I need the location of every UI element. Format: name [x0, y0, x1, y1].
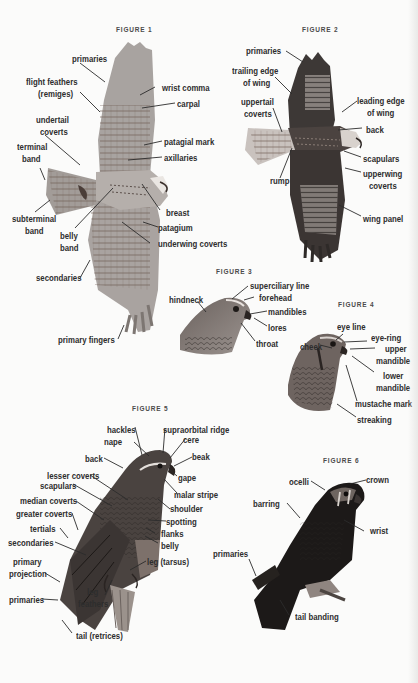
label-leg: leg: [87, 586, 98, 597]
label-shoulder: shoulder: [170, 503, 203, 514]
label-beak: beak: [192, 451, 210, 462]
label-primaries: primaries: [246, 45, 281, 56]
label-cheek: cheek: [300, 341, 322, 352]
label-undertail-coverts: coverts: [40, 126, 68, 137]
figure-4-title: FIGURE 4: [338, 301, 374, 308]
label-primary-fingers: primary fingers: [58, 334, 115, 345]
label-leg-tarsus: leg (tarsus): [147, 556, 189, 567]
label-gape: gape: [178, 472, 196, 483]
figure-3-title: FIGURE 3: [216, 268, 252, 275]
label-spotting: spotting: [166, 516, 197, 527]
label-underwing-coverts: underwing coverts: [158, 238, 227, 249]
label-patagium: patagium: [158, 222, 193, 233]
label-hindneck: hindneck: [169, 294, 203, 305]
page-edge-shadow: [408, 0, 418, 683]
label-leading-edge: leading edge: [357, 95, 405, 106]
label-terminal: terminal: [17, 141, 47, 152]
label-subterminal-band: band: [25, 225, 44, 236]
figure-5-title: FIGURE 5: [132, 405, 168, 412]
label-wing-panel: wing panel: [363, 213, 403, 224]
label-axillaries: axillaries: [164, 152, 197, 163]
label-undertail: undertail: [36, 114, 69, 125]
label-forehead: forehead: [259, 292, 292, 303]
label-primaries: primaries: [72, 53, 107, 64]
label-mustache-mark: mustache mark: [355, 398, 412, 409]
label-superciliary-line: superciliary line: [250, 280, 309, 291]
label-uppertail: uppertail: [241, 96, 274, 107]
label-terminal-band: band: [22, 153, 41, 164]
label-belly: belly: [161, 540, 179, 551]
label-wrist: wrist: [370, 525, 388, 536]
label-ocelli: ocelli: [289, 476, 309, 487]
label-upperwing-coverts: coverts: [369, 180, 397, 191]
label-wrist-comma: wrist comma: [162, 82, 210, 93]
label-malar-stripe: malar stripe: [174, 489, 218, 500]
label-nape: nape: [104, 436, 122, 447]
label-primary-projection: projection: [9, 568, 47, 579]
label-throat: throat: [256, 338, 278, 349]
label-crown: crown: [366, 474, 389, 485]
label-leg-feathers: feathers: [78, 598, 108, 609]
label-breast: breast: [166, 207, 189, 218]
label-uppertail-coverts: coverts: [244, 108, 272, 119]
label-mandibles: mandibles: [268, 306, 307, 317]
label-subterminal: subterminal: [12, 213, 56, 224]
label-eye-ring: eye-ring: [371, 332, 401, 343]
label-hackles: hackles: [107, 424, 136, 435]
label-lores: lores: [268, 322, 287, 333]
label-remiges: (remiges): [38, 88, 73, 99]
field-guide-page: FIGURE 1 primaries flight feathers (remi…: [0, 0, 418, 683]
label-patagial-mark: patagial mark: [164, 136, 214, 147]
label-lower-mandible: mandible: [376, 382, 410, 393]
label-upper-mandible: mandible: [376, 355, 410, 366]
label-carpal: carpal: [177, 98, 200, 109]
label-upper: upper: [385, 343, 407, 354]
label-greater-coverts: greater coverts: [16, 508, 72, 519]
label-secondaries: secondaries: [8, 537, 53, 548]
label-primaries: primaries: [9, 594, 44, 605]
label-back: back: [366, 124, 384, 135]
label-median-coverts: median coverts: [20, 495, 77, 506]
label-streaking: streaking: [357, 414, 392, 425]
label-lower: lower: [383, 370, 403, 381]
label-scapulars: scapulars: [40, 480, 76, 491]
label-cere: cere: [183, 434, 199, 445]
figure-6-title: FIGURE 6: [323, 457, 359, 464]
label-primaries: primaries: [213, 548, 248, 559]
figure-3-illustration: [180, 298, 251, 355]
label-flight-feathers: flight feathers: [26, 76, 78, 87]
label-tail-retrices: tail (retrices): [76, 630, 123, 641]
label-flanks: flanks: [161, 528, 184, 539]
label-upperwing: upperwing: [363, 168, 402, 179]
label-of-wing: of wing: [243, 77, 270, 88]
figure-2-title: FIGURE 2: [302, 26, 338, 33]
label-belly-band: band: [60, 242, 79, 253]
label-belly: belly: [60, 230, 78, 241]
label-back: back: [85, 453, 103, 464]
label-tail-banding: tail banding: [295, 611, 339, 622]
label-rump: rump: [270, 175, 289, 186]
figure-1-title: FIGURE 1: [116, 26, 152, 33]
label-scapulars: scapulars: [363, 153, 399, 164]
label-barring: barring: [253, 498, 280, 509]
label-tertials: tertials: [30, 523, 56, 534]
label-trailing-edge: trailing edge: [232, 65, 278, 76]
label-secondaries: secondaries: [36, 272, 81, 283]
label-primary: primary: [13, 556, 42, 567]
label-eye-line: eye line: [337, 321, 366, 332]
label-of-wing: of wing: [367, 107, 394, 118]
